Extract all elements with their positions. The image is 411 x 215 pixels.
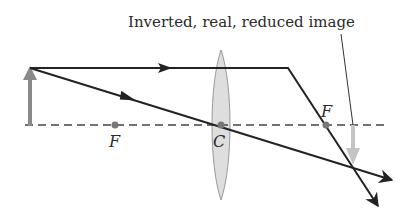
lens-ray-diagram: F C F Inverted, real, reduced image	[0, 0, 411, 215]
focal-left-label: F	[108, 132, 121, 151]
focal-point-right	[323, 122, 330, 129]
center-point	[218, 122, 225, 129]
focal-point-left	[112, 122, 119, 129]
label-leader-line	[341, 34, 353, 125]
center-label: C	[213, 132, 225, 151]
ray-direction-arrow-icon	[120, 91, 136, 101]
image-description-label: Inverted, real, reduced image	[128, 13, 355, 31]
focal-right-label: F	[320, 102, 333, 121]
central-ray	[30, 68, 392, 180]
object-arrow	[23, 66, 37, 126]
